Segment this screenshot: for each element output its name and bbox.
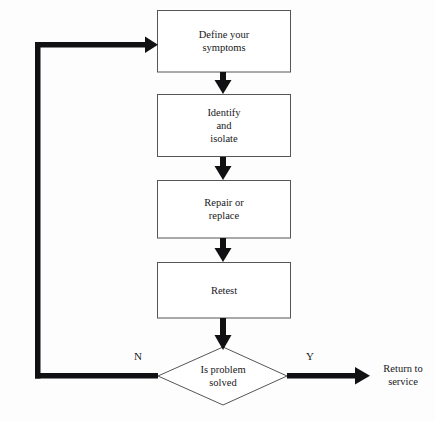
decision-diamond [158,347,287,405]
connector-define-to-identify [215,72,232,94]
process-box-retest [158,263,291,319]
process-box-repair [158,181,291,239]
connector-yes-branch [287,367,370,385]
connector-no-branch-loop [35,37,158,379]
connector-retest-to-decision [215,318,232,350]
flowchart-graphics [0,0,435,421]
process-box-define [158,11,291,73]
process-box-identify [158,95,291,157]
flowchart-canvas: Define your symptoms Identify and isolat… [0,0,435,421]
connector-identify-to-repair [215,157,232,180]
connector-repair-to-retest [215,238,232,262]
terminal-label-return-to-service: Return to service [372,362,434,388]
edge-label-no: N [128,350,148,362]
edge-label-yes: Y [300,350,320,362]
